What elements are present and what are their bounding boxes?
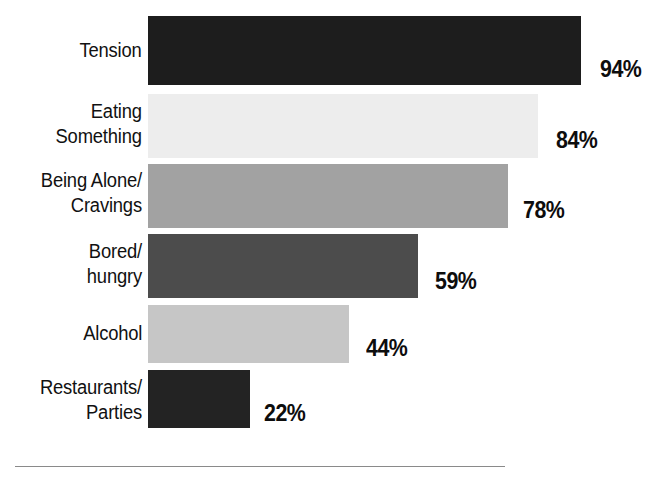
horizontal-bar-chart: Tension94%Eating Something84%Being Alone…	[0, 0, 656, 486]
baseline-divider	[15, 466, 505, 467]
bar-value-label: 94%	[600, 58, 641, 81]
bar-value-label: 22%	[264, 402, 305, 425]
bar-category-label: Eating Something	[56, 99, 142, 149]
bar-category-label: Restaurants/ Parties	[40, 375, 142, 425]
bar-value-label: 59%	[435, 270, 476, 293]
bar-rect	[148, 305, 349, 363]
bar-category-label: Tension	[80, 38, 142, 63]
bar-category-label: Alcohol	[83, 321, 142, 346]
bar-value-label: 78%	[523, 199, 564, 222]
bar-category-label: Bored/ hungry	[87, 239, 142, 289]
bar-rect	[148, 370, 250, 428]
bar-rect	[148, 164, 508, 228]
bar-value-label: 44%	[366, 337, 407, 360]
bar-rect	[148, 16, 581, 85]
bar-category-label: Being Alone/ Cravings	[41, 168, 142, 218]
bar-rect	[148, 234, 418, 298]
bar-rect	[148, 94, 538, 158]
bar-value-label: 84%	[556, 129, 597, 152]
